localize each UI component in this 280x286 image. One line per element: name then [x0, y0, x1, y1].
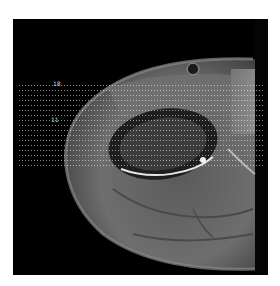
marker-label: 18 — [53, 81, 61, 87]
mri-scan — [13, 19, 268, 275]
marker-label: 11 — [51, 117, 59, 123]
mri-image-frame: 18 11 — [13, 19, 268, 275]
